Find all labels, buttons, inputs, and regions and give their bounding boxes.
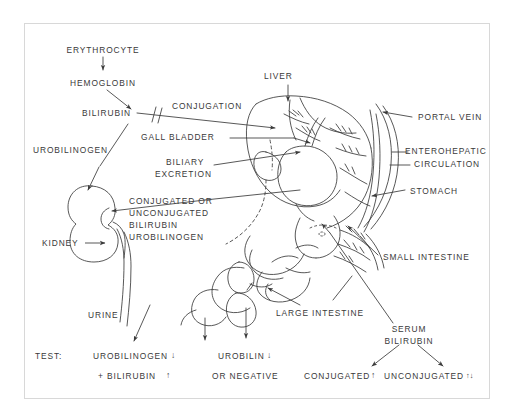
- arrow-urine-diagonal: [134, 305, 150, 341]
- bile-duct-to-duodenum: [226, 180, 266, 244]
- label-test-bilirubin: + BILIRUBIN: [98, 371, 156, 382]
- label-enterohepatic: ENTEROHEPATIC: [405, 146, 487, 157]
- mesenteric-twigs-2: [344, 240, 364, 253]
- arrow-serum-conjugated: [372, 345, 399, 366]
- label-erythrocyte: ERYTHROCYTE: [66, 45, 139, 56]
- label-excretion: EXCRETION: [155, 169, 212, 180]
- label-unconjugated: UNCONJUGATED: [129, 208, 209, 219]
- label-urobilinogen-left: UROBILINOGEN: [33, 145, 108, 156]
- mesenteric-trunk-2: [366, 234, 384, 268]
- label-test-urobilinogen: UROBILINOGEN: [93, 351, 168, 362]
- arrow-hemoglobin-bilirubin: [107, 90, 131, 109]
- hepatic-branch-1: [284, 114, 309, 124]
- leader-small-intestine: [348, 226, 378, 255]
- transverse-colon: [272, 256, 298, 262]
- leader-conj-unconj-right: [205, 190, 300, 200]
- label-or-negative: OR NEGATIVE: [212, 371, 279, 382]
- liver-fissure: [289, 100, 296, 140]
- label-bilirubin-2: BILIRUBIN: [129, 220, 178, 231]
- hepatic-twigs-1: [289, 110, 303, 117]
- label-conjugated-or: CONJUGATED OR: [129, 196, 213, 207]
- label-gall-bladder: GALL BLADDER: [141, 132, 215, 143]
- label-serum: SERUM: [392, 324, 427, 335]
- small-intestine-coil-6: [296, 245, 318, 248]
- label-stomach: STOMACH: [410, 186, 458, 197]
- label-large-intestine: LARGE INTESTINE: [276, 308, 364, 319]
- label-liver: LIVER: [264, 71, 293, 82]
- pancreas-detail: [319, 232, 325, 236]
- label-test-bilirubin-arrow: ↑: [166, 370, 170, 381]
- kidney-outline: [68, 186, 118, 262]
- label-urine: URINE: [88, 310, 119, 321]
- leader-large-intestine-2: [333, 276, 352, 300]
- mesenteric-trunk: [360, 236, 378, 270]
- label-conjugated-result: CONJUGATED: [304, 371, 370, 382]
- body-wall-right-2: [371, 106, 398, 229]
- small-intestine-coil-2: [250, 250, 283, 279]
- label-circulation: CIRCULATION: [414, 159, 480, 170]
- portal-vein-trunk: [358, 110, 374, 228]
- bladder-upper: [228, 262, 254, 293]
- duodenum-2: [316, 216, 340, 258]
- stomach-shape: [278, 146, 337, 206]
- liver-lobe-divide: [300, 98, 356, 133]
- label-urobilin: UROBILIN: [218, 351, 265, 362]
- label-test-urobilinogen-arrow: ↓: [171, 350, 175, 361]
- leader-conjugation: [137, 113, 275, 128]
- label-unconjugated-result: UNCONJUGATED: [384, 371, 464, 382]
- kidney-hilum: [101, 208, 109, 229]
- bladder-lower: [226, 293, 256, 327]
- liver-left-lobe: [246, 104, 340, 207]
- mesenteric-3: [334, 256, 366, 272]
- label-portal-vein: PORTAL VEIN: [418, 112, 482, 123]
- hepatic-twigs-4: [342, 144, 359, 154]
- bladder-tube: [247, 283, 252, 290]
- label-kidney: KIDNEY: [42, 238, 79, 249]
- label-serum-bilirubin: BILIRUBIN: [384, 336, 433, 347]
- leader-kidney: [85, 238, 113, 248]
- duodenum: [295, 218, 316, 258]
- label-urobilin-arrow: ↓: [267, 350, 271, 361]
- large-intestine-2: [192, 289, 226, 325]
- bile-duct-dashed: [270, 140, 272, 170]
- hepatic-twigs-5: [345, 164, 355, 174]
- label-biliary: BILIARY: [166, 157, 204, 168]
- hepatic-twigs-2: [302, 126, 315, 135]
- label-urobilinogen-2: UROBILINOGEN: [129, 232, 204, 243]
- small-intestine-coil-1: [245, 236, 304, 275]
- label-bilirubin: BILIRUBIN: [82, 108, 131, 119]
- label-small-intestine: SMALL INTESTINE: [383, 252, 470, 263]
- label-unconjugated-arrow: ↑↓: [466, 370, 474, 381]
- label-hemoglobin: HEMOGLOBIN: [70, 78, 136, 89]
- label-conjugation: CONJUGATION: [172, 101, 242, 112]
- label-conjugated-arrow: ↑: [371, 370, 375, 381]
- arrow-serum-unconjugated: [418, 345, 443, 366]
- label-test: TEST:: [35, 351, 62, 362]
- leader-large-intestine: [268, 288, 300, 305]
- diagram-page: ERYTHROCYTE HEMOGLOBIN BILIRUBIN CONJUGA…: [0, 0, 518, 420]
